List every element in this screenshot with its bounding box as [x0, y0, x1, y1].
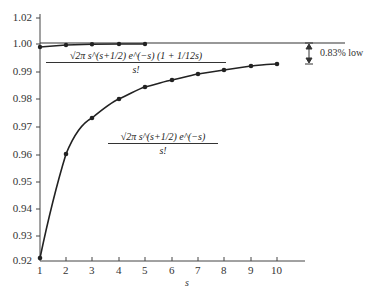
y-tick-label: 0.99	[0, 65, 32, 77]
gap-annotation: 0.83% low	[320, 47, 363, 58]
y-tick-label: 1.00	[0, 37, 32, 49]
x-ticks	[66, 257, 277, 261]
series-stirling	[40, 64, 277, 258]
y-tick-label: 0.96	[0, 148, 32, 160]
x-tick-label: 3	[89, 264, 95, 276]
gap-arrow-icon	[305, 43, 313, 64]
y-ticks	[36, 18, 40, 236]
y-tick-label: 0.94	[0, 202, 32, 214]
x-tick-label: 10	[271, 264, 282, 276]
x-tick-label: 8	[221, 264, 227, 276]
lower-formula-denominator: s!	[108, 144, 218, 156]
y-tick-label: 0.95	[0, 175, 32, 187]
x-tick-label: 6	[169, 264, 175, 276]
x-tick-label: 9	[248, 264, 254, 276]
y-tick-label: 1.02	[0, 11, 32, 23]
upper-formula-numerator: √2π s^(s+1/2) e^(−s) (1 + 1/12s)	[46, 50, 226, 63]
y-tick-label: 0.97	[0, 120, 32, 132]
x-tick-label: 5	[142, 264, 148, 276]
x-tick-label: 7	[195, 264, 201, 276]
y-tick-label: 0.93	[0, 229, 32, 241]
lower-formula-numerator: √2π s^(s+1/2) e^(−s)	[108, 131, 218, 144]
y-tick-label: 0.92	[0, 254, 32, 266]
upper-formula-label: √2π s^(s+1/2) e^(−s) (1 + 1/12s) s!	[46, 50, 226, 75]
x-tick-label: 2	[63, 264, 69, 276]
x-tick-label: 1	[37, 264, 43, 276]
upper-formula-denominator: s!	[46, 63, 226, 75]
x-axis-label: s	[185, 277, 189, 288]
series-stirling-points	[38, 62, 280, 261]
lower-formula-label: √2π s^(s+1/2) e^(−s) s!	[108, 131, 218, 156]
x-tick-label: 4	[116, 264, 122, 276]
y-tick-label: 0.98	[0, 92, 32, 104]
